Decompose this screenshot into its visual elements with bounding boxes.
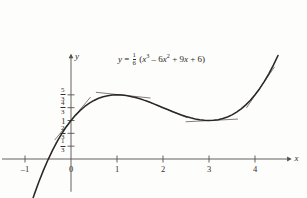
fraction-denominator: 6 [133,60,136,67]
x-tick-label-neg1: –1 [21,165,30,174]
equation-close-paren: ) [202,54,205,64]
y-axis-arrowhead [69,54,74,59]
equation-lhs: y [118,54,122,64]
x-tick-label-4: 4 [253,165,257,174]
fraction-numerator: 5 [60,87,66,94]
fraction-denominator: 3 [60,134,66,141]
equation-plus-2: + [190,54,195,64]
cubic-curve [2,56,278,198]
x-axis-label: x [295,154,299,163]
y-tick-label-1: 1 [61,116,65,126]
axes-group [2,54,292,192]
fraction-denominator: 3 [60,109,66,116]
graph-figure: –101234 132314353 y x y = 1 6 (x3 – 6x2 … [0,0,307,198]
x-tick-label-1: 1 [115,165,119,174]
equation-term3-base: x [184,54,188,64]
y-tick-label-2-over-3: 23 [60,125,66,141]
equation-coefficient-fraction: 1 6 [133,52,136,68]
y-tick-label-5-over-3: 53 [60,87,66,103]
equation-annotation: y = 1 6 (x3 – 6x2 + 9x + 6) [118,52,205,68]
x-tick-label-2: 2 [161,165,165,174]
equation-term1-exponent: 3 [146,52,149,59]
fraction-numerator: 1 [133,52,136,59]
fraction-denominator: 3 [60,96,66,103]
x-axis-arrowhead [287,157,292,162]
fraction-numerator: 2 [60,125,66,132]
y-axis-label: y [75,52,79,61]
equation-minus: – [152,54,157,64]
x-tick-label-3: 3 [207,165,211,174]
equation-term2-exponent: 2 [167,52,170,59]
x-tick-label-0: 0 [69,165,73,174]
fraction-denominator: 3 [60,147,66,154]
plot-canvas [0,0,307,198]
equation-plus-1: + [172,54,177,64]
equation-equals: = [124,54,129,64]
